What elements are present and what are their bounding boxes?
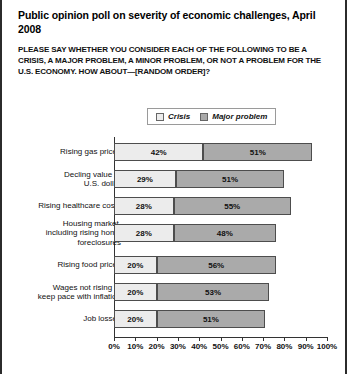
category-label: Rising healthcare costs <box>25 201 121 211</box>
x-tick <box>263 337 264 341</box>
bar-track: 20%56% <box>114 256 327 274</box>
x-tick <box>114 337 115 341</box>
x-tick <box>327 337 328 341</box>
x-tick-label: 90% <box>298 342 314 351</box>
bar-segment-major-problem: 53% <box>157 283 270 301</box>
bar-row: Rising food prices20%56% <box>16 256 335 274</box>
x-tick-label: 10% <box>127 342 143 351</box>
x-tick-label: 40% <box>191 342 207 351</box>
legend-swatch-major-problem-icon <box>200 113 208 121</box>
bar-row: Job losses20%51% <box>16 310 335 328</box>
x-tick-label: 80% <box>276 342 292 351</box>
x-tick <box>242 337 243 341</box>
x-tick <box>221 337 222 341</box>
category-label: Rising food prices <box>25 260 121 270</box>
plot-area: Rising gas prices42%51%Decling value of … <box>16 137 335 347</box>
bar-row: Decling value of U.S. dollar29%51% <box>16 170 335 188</box>
bar-segment-crisis: 20% <box>114 283 157 301</box>
bar-segment-major-problem: 51% <box>157 310 266 328</box>
bar-track: 28%48% <box>114 224 327 242</box>
x-tick <box>306 337 307 341</box>
category-label: Housing market, including rising home fo… <box>25 219 121 248</box>
bar-segment-major-problem: 56% <box>157 256 276 274</box>
x-tick-label: 50% <box>212 342 228 351</box>
bar-track: 20%53% <box>114 283 327 301</box>
x-tick-label: 0% <box>108 342 120 351</box>
bar-segment-crisis: 20% <box>114 310 157 328</box>
chart-figure: Public opinion poll on severity of econo… <box>0 0 347 374</box>
bar-segment-major-problem: 51% <box>203 143 312 161</box>
bar-row: Housing market, including rising home fo… <box>16 224 335 242</box>
x-tick <box>135 337 136 341</box>
x-tick <box>284 337 285 341</box>
x-tick-label: 100% <box>317 342 337 351</box>
bar-segment-major-problem: 51% <box>176 170 285 188</box>
x-tick-label: 30% <box>170 342 186 351</box>
x-tick <box>199 337 200 341</box>
bar-segment-major-problem: 48% <box>174 224 276 242</box>
x-tick-label: 60% <box>234 342 250 351</box>
legend-item-major-problem: Major problem <box>200 112 267 121</box>
x-tick-label: 70% <box>255 342 271 351</box>
x-tick-label: 20% <box>149 342 165 351</box>
category-label: Rising gas prices <box>25 147 121 157</box>
category-label: Decling value of U.S. dollar <box>25 170 121 189</box>
bar-segment-crisis: 29% <box>114 170 176 188</box>
bar-row: Rising gas prices42%51% <box>16 143 335 161</box>
bar-segment-major-problem: 55% <box>174 197 291 215</box>
chart-title: Public opinion poll on severity of econo… <box>18 9 318 36</box>
bar-segment-crisis: 28% <box>114 197 174 215</box>
bar-segment-crisis: 20% <box>114 256 157 274</box>
x-tick <box>157 337 158 341</box>
chart-legend: Crisis Major problem <box>147 108 276 125</box>
bar-track: 29%51% <box>114 170 327 188</box>
chart-subtitle: PLEASE SAY WHETHER YOU CONSIDER EACH OF … <box>18 44 324 77</box>
bar-row: Wages not rising to keep pace with infla… <box>16 283 335 301</box>
bar-segment-crisis: 42% <box>114 143 203 161</box>
bar-track: 42%51% <box>114 143 327 161</box>
x-tick <box>178 337 179 341</box>
bar-segment-crisis: 28% <box>114 224 174 242</box>
legend-label-major-problem: Major problem <box>212 112 267 121</box>
bar-track: 20%51% <box>114 310 327 328</box>
bar-row: Rising healthcare costs28%55% <box>16 197 335 215</box>
legend-item-crisis: Crisis <box>156 112 190 121</box>
legend-swatch-crisis-icon <box>156 113 164 121</box>
bar-track: 28%55% <box>114 197 327 215</box>
category-label: Wages not rising to keep pace with infla… <box>25 283 121 302</box>
legend-label-crisis: Crisis <box>168 112 190 121</box>
category-label: Job losses <box>25 314 121 324</box>
